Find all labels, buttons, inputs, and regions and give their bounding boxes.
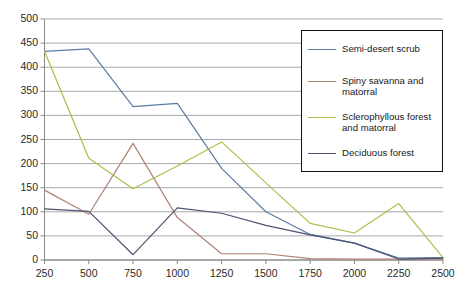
x-axis-label-1750: 1750 [288,267,332,279]
line-chart: 050100150200250300350400450500 250500750… [0,0,459,296]
legend-item-2: Sclerophyllous forest and matorral [308,111,440,133]
legend-swatch-icon-3 [308,153,336,154]
y-axis-label-200: 200 [2,157,38,169]
y-axis-label-400: 400 [2,60,38,72]
y-axis-label-150: 150 [2,181,38,193]
x-axis-label-750: 750 [111,267,155,279]
y-axis-label-450: 450 [2,36,38,48]
x-axis-label-2000: 2000 [332,267,376,279]
x-axis-label-1500: 1500 [244,267,288,279]
x-tick-marks [45,260,444,264]
legend-item-3: Deciduous forest [308,147,440,158]
x-axis-label-250: 250 [23,267,67,279]
legend-swatch-icon-2 [308,117,336,118]
x-axis-label-1000: 1000 [155,267,199,279]
y-axis-label-250: 250 [2,133,38,145]
legend-label-0: Semi-desert scrub [342,43,420,54]
series-line-3 [45,208,444,259]
legend-swatch-icon-1 [308,81,336,82]
x-axis-label-1250: 1250 [200,267,244,279]
legend-item-0: Semi-desert scrub [308,43,440,54]
legend-label-3: Deciduous forest [342,147,414,158]
y-axis-label-500: 500 [2,12,38,24]
y-axis-label-350: 350 [2,84,38,96]
legend-swatch-icon-0 [308,49,336,50]
legend-label-2: Sclerophyllous forest and matorral [342,111,440,133]
x-axis-label-2500: 2500 [421,267,459,279]
y-axis-label-50: 50 [2,229,38,241]
y-axis-label-0: 0 [2,253,38,265]
x-axis-label-500: 500 [67,267,111,279]
y-axis-label-100: 100 [2,205,38,217]
y-axis-label-300: 300 [2,108,38,120]
legend-item-1: Spiny savanna and matorral [308,75,440,97]
x-axis-label-2250: 2250 [377,267,421,279]
chart-legend: Semi-desert scrubSpiny savanna and mator… [301,30,443,172]
legend-label-1: Spiny savanna and matorral [342,75,440,97]
